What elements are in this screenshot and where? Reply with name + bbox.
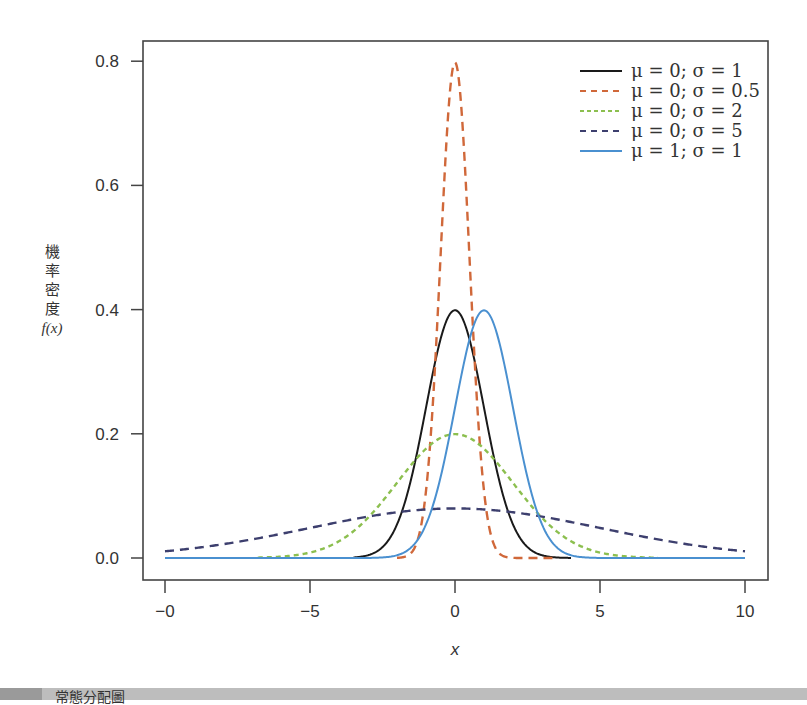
legend-label: μ = 1; σ = 1 <box>631 140 743 161</box>
legend-label: μ = 0; σ = 5 <box>631 120 743 141</box>
legend-label: μ = 0; σ = 2 <box>631 100 743 121</box>
y-tick-label: 0.2 <box>95 425 119 444</box>
curve-series-0 <box>354 310 572 558</box>
legend-label: μ = 0; σ = 0.5 <box>631 80 760 101</box>
y-axis: 0.00.20.40.60.8 <box>95 52 143 568</box>
y-tick-label: 0.0 <box>95 549 119 568</box>
x-axis-label: x <box>450 640 460 659</box>
y-label-char: 機 <box>45 243 60 261</box>
legend-label: μ = 0; σ = 1 <box>631 60 743 81</box>
normal-distribution-chart: 0.00.20.40.60.8 −0−50510 機率密度f(x) x μ = … <box>0 0 807 688</box>
curve-series-1 <box>397 63 557 558</box>
y-axis-label: 機率密度f(x) <box>42 243 63 337</box>
caption-tab <box>0 688 42 700</box>
x-tick-label: −5 <box>300 602 319 621</box>
x-tick-label: 0 <box>450 602 459 621</box>
x-tick-label: 10 <box>736 602 755 621</box>
figure-caption: 常態分配圖 <box>55 690 125 704</box>
y-tick-label: 0.4 <box>95 301 119 320</box>
y-label-char: 密 <box>45 281 60 299</box>
y-tick-label: 0.6 <box>95 176 119 195</box>
y-tick-label: 0.8 <box>95 52 119 71</box>
y-label-fx: f(x) <box>42 320 63 337</box>
y-label-char: 度 <box>45 300 60 318</box>
x-tick-label: 5 <box>595 602 604 621</box>
x-axis: −0−50510 <box>155 580 754 621</box>
curve-series-2 <box>258 434 658 558</box>
legend: μ = 0; σ = 1μ = 0; σ = 0.5μ = 0; σ = 2μ … <box>580 60 760 161</box>
curve-series-3 <box>165 508 745 551</box>
x-tick-label: −0 <box>155 602 174 621</box>
y-label-char: 率 <box>45 262 60 280</box>
